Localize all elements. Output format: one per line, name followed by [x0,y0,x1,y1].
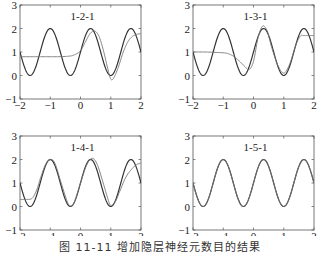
subplot-1-3-1: −2−1012−101231-3-1 [178,0,316,111]
x-tick-label: 1 [281,99,287,111]
x-tick-label: 1 [281,230,287,236]
y-tick-label: 0 [185,201,191,213]
x-tick-label: 0 [251,99,257,111]
y-tick-label: 1 [185,46,191,58]
x-tick-label: 2 [138,99,144,111]
y-tick-label: 2 [12,23,18,35]
x-tick-label: 0 [251,230,257,236]
figure-caption: 图 11-11 增加隐层神经元数目的结果 [0,238,320,254]
figure: −2−1012−101231-2-1−2−1012−101231-3-1−2−1… [0,0,320,236]
subplot-title: 1-4-1 [71,141,95,153]
y-tick-label: 3 [12,0,18,11]
subplot-1-2-1: −2−1012−101231-2-1 [5,0,143,111]
x-tick-label: −1 [217,99,229,111]
x-tick-label: 2 [138,230,144,236]
x-tick-label: 2 [311,99,317,111]
subplot-title: 1-3-1 [244,10,268,22]
subplot-title: 1-2-1 [71,10,95,22]
x-tick-label: 0 [78,230,84,236]
y-tick-label: 3 [185,130,191,142]
x-tick-label: −1 [217,230,229,236]
network-output-curve [20,158,141,206]
x-tick-label: 1 [108,99,114,111]
subplot-1-4-1: −2−1012−101231-4-1 [5,130,143,236]
y-tick-label: 1 [185,177,191,189]
x-tick-label: −1 [44,230,56,236]
y-tick-label: 3 [185,0,191,11]
network-output-curve [193,160,314,207]
y-tick-label: −1 [5,93,17,105]
y-tick-label: −1 [178,93,190,105]
y-tick-label: 0 [12,201,18,213]
y-tick-label: 2 [185,154,191,166]
y-tick-label: 3 [12,130,18,142]
y-tick-label: 1 [12,177,18,189]
y-tick-label: 2 [185,23,191,35]
y-tick-label: −1 [178,224,190,236]
subplot-1-5-1: −2−1012−101231-5-1 [178,130,316,236]
y-tick-label: 1 [12,46,18,58]
y-tick-label: 0 [185,70,191,82]
network-output-curve [193,26,314,73]
y-tick-label: 0 [12,70,18,82]
y-tick-label: 2 [12,154,18,166]
x-tick-label: 2 [311,230,317,236]
x-tick-label: −1 [44,99,56,111]
subplot-title: 1-5-1 [244,141,268,153]
x-tick-label: 1 [108,230,114,236]
y-tick-label: −1 [5,224,17,236]
network-output-curve [20,31,141,80]
x-tick-label: 0 [78,99,84,111]
